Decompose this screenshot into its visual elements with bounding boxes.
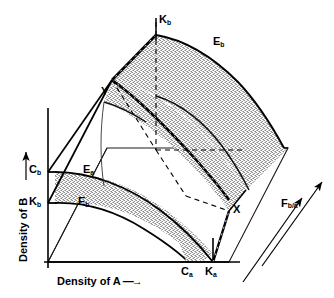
label-curve-Ea: Ea	[83, 164, 94, 176]
axis-title-y: Density of B	[18, 198, 29, 262]
depth-arrow-upper	[262, 182, 322, 266]
axis-title-x: Density of A —→	[57, 276, 143, 287]
label-y-axis-Kb: Kb	[29, 196, 41, 208]
label-y-axis-Cb: Cb	[29, 164, 41, 176]
figure-canvas: Kb Eb Y X Cb Ea Kb Eb Ca Ka Fb/a Density…	[0, 0, 334, 298]
label-point-X: X	[233, 204, 240, 215]
axis-title-depth: Fb/a	[281, 198, 298, 210]
label-x-axis-Ca: Ca	[181, 266, 193, 278]
label-point-Y: Y	[101, 86, 108, 97]
label-x-axis-Ka: Ka	[205, 266, 217, 278]
label-curve-Eb-top: Eb	[213, 36, 225, 48]
label-point-apex-Kb: Kb	[159, 14, 171, 26]
label-curve-Eb-front: Eb	[78, 196, 90, 208]
diagram-svg	[0, 0, 334, 298]
